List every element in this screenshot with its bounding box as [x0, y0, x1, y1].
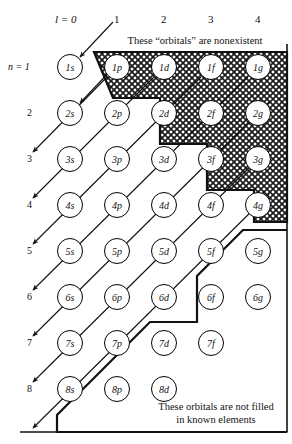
orbital-7f: 7f	[198, 330, 224, 356]
orbital-1d: 1d	[151, 54, 177, 80]
row-header-n5: 5	[27, 245, 32, 256]
orbital-1s: 1s	[57, 54, 83, 80]
caption-unfilled-line2: in known elements	[148, 413, 284, 426]
orbital-3d: 3d	[151, 146, 177, 172]
row-header-n2: 2	[27, 107, 32, 118]
orbital-7p: 7p	[104, 330, 130, 356]
orbital-6p: 6p	[104, 284, 130, 310]
orbital-2g: 2g	[245, 100, 271, 126]
orbital-2s: 2s	[57, 100, 83, 126]
arrow-3p-4s	[33, 77, 154, 198]
column-header-l1: 1	[114, 13, 120, 25]
orbital-7s: 7s	[57, 330, 83, 356]
column-header-l0: l = 0	[55, 13, 76, 25]
row-header-n8: 8	[27, 383, 32, 394]
row-header-n3: 3	[27, 153, 32, 164]
orbital-4f: 4f	[198, 192, 224, 218]
row-header-n1: n = 1	[8, 61, 30, 72]
column-header-l3: 3	[208, 13, 214, 25]
orbital-1f: 1f	[198, 54, 224, 80]
aufbau-diagonal-rule-diagram: l = 0 1 2 3 4 n = 1 2 3 4 5 6 7 8 1s1p1d…	[0, 0, 292, 444]
orbital-2d: 2d	[151, 100, 177, 126]
orbital-6d: 6d	[151, 284, 177, 310]
orbital-3p: 3p	[104, 146, 130, 172]
orbital-5d: 5d	[151, 238, 177, 264]
column-header-l4: 4	[255, 13, 261, 25]
caption-nonexistent: These “orbitals” are nonexistent	[110, 34, 280, 47]
column-header-l2: 2	[161, 13, 167, 25]
orbital-3g: 3g	[245, 146, 271, 172]
row-header-n6: 6	[27, 291, 32, 302]
orbital-4s: 4s	[57, 192, 83, 218]
orbital-6g: 6g	[245, 284, 271, 310]
orbital-3s: 3s	[57, 146, 83, 172]
orbital-4g: 4g	[245, 192, 271, 218]
orbital-5p: 5p	[104, 238, 130, 264]
orbital-5g: 5g	[245, 238, 271, 264]
orbital-7d: 7d	[151, 330, 177, 356]
orbital-4d: 4d	[151, 192, 177, 218]
caption-unfilled-line1: These orbitals are not filled	[148, 400, 284, 413]
orbital-4p: 4p	[104, 192, 130, 218]
orbital-2p: 2p	[104, 100, 130, 126]
orbital-3f: 3f	[198, 146, 224, 172]
orbital-5f: 5f	[198, 238, 224, 264]
row-header-n7: 7	[27, 337, 32, 348]
row-header-n4: 4	[27, 199, 32, 210]
orbital-6s: 6s	[57, 284, 83, 310]
orbital-6f: 6f	[198, 284, 224, 310]
orbital-1g: 1g	[245, 54, 271, 80]
orbital-1p: 1p	[104, 54, 130, 80]
orbital-8s: 8s	[57, 376, 83, 402]
orbital-8d: 8d	[151, 376, 177, 402]
orbital-8p: 8p	[104, 376, 130, 402]
orbital-2f: 2f	[198, 100, 224, 126]
orbital-5s: 5s	[57, 238, 83, 264]
